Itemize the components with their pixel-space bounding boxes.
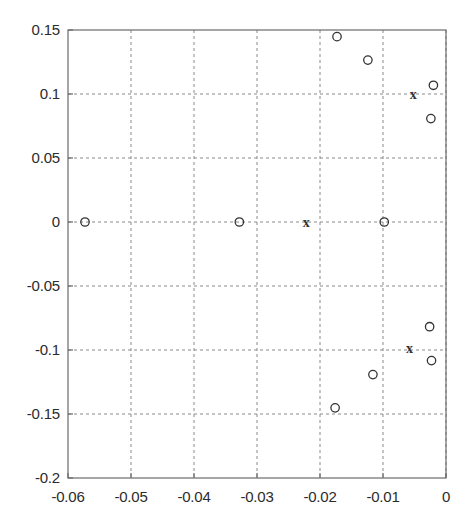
zero-marker-icon <box>369 370 377 378</box>
zero-marker-icon <box>427 114 435 122</box>
y-tick-label: -0.1 <box>2 341 60 358</box>
zero-marker-icon <box>333 32 341 40</box>
y-tick-label: 0.05 <box>2 149 60 166</box>
gridlines <box>68 30 446 478</box>
y-tick-label: -0.2 <box>2 469 60 486</box>
y-tick-label: 0.15 <box>2 21 60 38</box>
zero-marker-icon <box>427 356 435 364</box>
zero-marker-icon <box>331 404 339 412</box>
pole-marker-icon: x <box>303 215 310 230</box>
zero-marker-icon <box>425 323 433 331</box>
zero-marker-icon <box>364 56 372 64</box>
pole-marker-icon: x <box>410 87 417 102</box>
y-tick-label: -0.05 <box>2 277 60 294</box>
y-tick-label: -0.15 <box>2 405 60 422</box>
x-tick-label: 0 <box>406 488 472 505</box>
y-tick-label: 0.1 <box>2 85 60 102</box>
pole-marker-icon: x <box>406 341 413 356</box>
zero-marker-icon <box>429 81 437 89</box>
y-tick-label: 0 <box>2 213 60 230</box>
scatter-plot-figure: xxx -0.06-0.05-0.04-0.03-0.02-0.0100.150… <box>0 0 472 527</box>
plot-canvas: xxx <box>0 0 472 527</box>
